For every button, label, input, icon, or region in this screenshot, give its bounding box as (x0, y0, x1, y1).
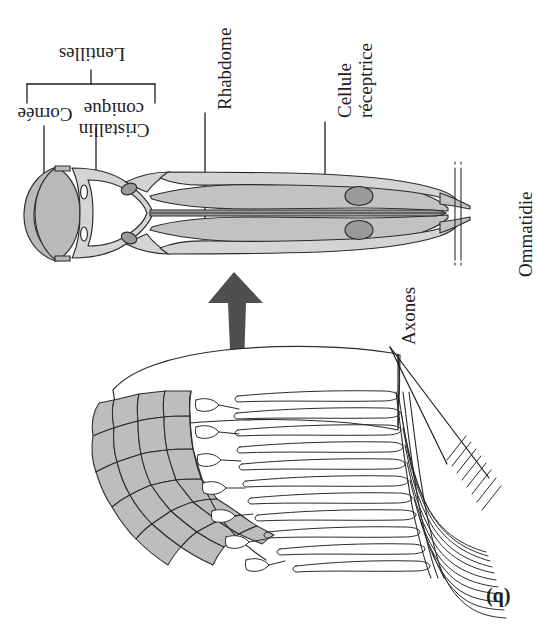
label-cellule-line2: réceptrice (355, 8, 376, 118)
label-cellule-receptrice: Cellule réceptrice (334, 8, 377, 118)
compound-eye-block (92, 346, 506, 618)
label-rhabdome: Rhabdome (214, 28, 235, 110)
ommatidium-section (24, 162, 470, 266)
axon-stubs (447, 436, 501, 510)
crystalline-cone-core (88, 180, 147, 246)
receptor-nucleus-upper (345, 187, 373, 206)
label-cristallin-line1: Cristallin (64, 119, 164, 140)
label-cristallin-conique: Cristallin conique (64, 98, 164, 141)
receptor-nucleus-lower (345, 221, 373, 240)
panel-label: (b) (486, 588, 510, 610)
label-ommatidie: Ommatidie (515, 192, 536, 277)
axon-bundle (399, 398, 506, 618)
section-break-marks (455, 162, 461, 266)
label-lentilles: Lentilles (44, 44, 140, 65)
cornea-cap-top (55, 166, 70, 171)
cone-cell-lower (81, 227, 88, 241)
cornea-cap-bottom (55, 256, 70, 261)
label-axones: Axones (398, 287, 419, 345)
label-cellule-line1: Cellule (334, 8, 355, 118)
label-cristallin-line2: conique (64, 98, 164, 119)
cone-cell-upper (81, 185, 88, 199)
